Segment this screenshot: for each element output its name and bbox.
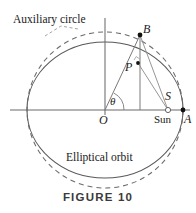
point-a-label: A (184, 113, 191, 125)
point-s-label: S (165, 90, 171, 102)
sun-label: Sun (154, 114, 171, 125)
elliptical-orbit-label: Elliptical orbit (66, 152, 133, 164)
figure-caption: FIGURE 10 (0, 191, 196, 203)
angle-theta-label: θ (110, 96, 115, 107)
auxiliary-circle-leader-line (45, 26, 78, 36)
right-angle-tick-at-p (134, 57, 140, 60)
point-b-marker (138, 33, 143, 38)
figure-10-container: Auxiliary circle Elliptical orbit B P O … (0, 0, 196, 213)
point-p-marker (136, 61, 140, 65)
orbit-diagram-svg (0, 0, 196, 213)
point-o-label: O (99, 114, 108, 126)
point-p-label: P (125, 61, 132, 73)
angle-theta-arc (114, 93, 124, 110)
sun-marker (165, 107, 170, 112)
point-b-label: B (143, 23, 150, 35)
auxiliary-circle-label: Auxiliary circle (13, 14, 85, 26)
